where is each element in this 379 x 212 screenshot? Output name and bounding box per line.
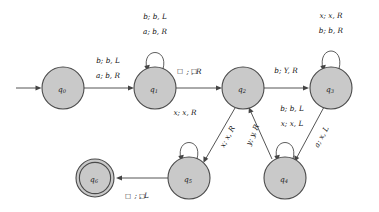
blank-symbol-icon-1: □ bbox=[177, 67, 183, 75]
transition-label-q0-q1-top: b; b, L bbox=[96, 56, 120, 65]
turing-machine-diagram: b; b, L a; b, R b; b, L a; b, R □ ; , R … bbox=[0, 0, 379, 212]
transition-label-q0-q1-bottom: a; b, R bbox=[96, 71, 120, 80]
blank-symbol-icon-4: □ bbox=[139, 192, 145, 200]
blank-symbol-icon-3: □ bbox=[125, 192, 131, 200]
transition-label-q1-q2: □ ; , R □ bbox=[177, 67, 202, 76]
start-arrow bbox=[16, 86, 42, 91]
transition-label-q4-q2: y; y, R bbox=[243, 122, 261, 147]
state-q3[interactable]: q3 bbox=[310, 67, 352, 109]
transition-label-q1-loop-bottom: a; b, R bbox=[143, 27, 167, 36]
transition-label-q5-loop: x; x, R bbox=[173, 108, 197, 117]
transition-label-q3-loop-top: x; x, R bbox=[319, 11, 343, 20]
transition-label-q2-q5: x; x, R bbox=[218, 124, 237, 149]
transition-label-q2-q3: b; Y, R bbox=[274, 66, 298, 75]
blank-symbol-icon-2: □ bbox=[191, 67, 197, 75]
transition-q0-q1: b; b, L a; b, R bbox=[84, 56, 134, 91]
state-q2-sub: 2 bbox=[242, 88, 246, 94]
transition-q1-q2: □ ; , R □ bbox=[176, 67, 222, 91]
state-q0[interactable]: q0 bbox=[42, 67, 84, 109]
state-q5[interactable]: q5 bbox=[168, 157, 210, 199]
transition-label-q1-loop-top: b; b, L bbox=[143, 12, 167, 21]
transition-label-q4-loop-top: b; b, L bbox=[280, 104, 304, 113]
state-q4-sub: 4 bbox=[284, 178, 288, 184]
transition-q5-self-loop: x; x, R bbox=[173, 108, 197, 162]
transition-q4-q2: y; y, R bbox=[243, 107, 272, 159]
transition-label-q3-loop-bottom: b; b, R bbox=[319, 26, 344, 35]
state-diagram-canvas: b; b, L a; b, R b; b, L a; b, R □ ; , R … bbox=[0, 0, 379, 212]
transition-q1-self-loop: b; b, L a; b, R bbox=[143, 12, 167, 72]
transition-q2-q5: x; x, R bbox=[203, 108, 237, 163]
transition-label-q4-loop-bottom: x; x, L bbox=[281, 119, 304, 128]
state-q4[interactable]: q4 bbox=[264, 157, 306, 199]
transition-q5-q6: □ ; , L □ bbox=[116, 176, 168, 201]
state-q2[interactable]: q2 bbox=[222, 67, 264, 109]
state-q1-sub: 1 bbox=[155, 88, 158, 94]
transition-label-q3-q4: a; x, L bbox=[312, 124, 331, 148]
transition-q2-q3: b; Y, R bbox=[264, 66, 309, 91]
transition-q3-self-loop: x; x, R b; b, R bbox=[319, 11, 344, 72]
state-q1[interactable]: q1 bbox=[134, 67, 176, 109]
state-q5-sub: 5 bbox=[189, 178, 192, 184]
transition-q3-q4: a; x, L bbox=[294, 107, 331, 162]
transition-label-q5-q6: □ ; , L □ bbox=[125, 191, 149, 200]
state-q6-accepting[interactable]: q6 bbox=[76, 159, 114, 197]
